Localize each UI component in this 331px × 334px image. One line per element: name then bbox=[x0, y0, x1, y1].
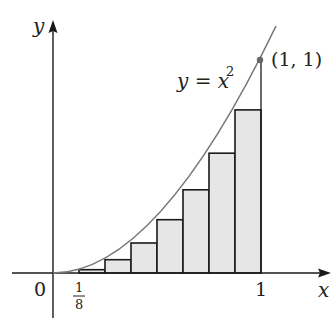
x-axis-label: x bbox=[318, 278, 329, 302]
rectangle-7 bbox=[209, 153, 235, 273]
rectangle-6 bbox=[183, 190, 209, 273]
rectangles bbox=[79, 110, 261, 273]
fraction-numerator: 1 bbox=[75, 280, 83, 295]
curve-label: y = x 2 bbox=[176, 64, 234, 93]
point-label: (1, 1) bbox=[271, 48, 322, 70]
curve-label-exponent: 2 bbox=[226, 64, 234, 79]
rectangle-4 bbox=[131, 243, 157, 273]
fraction-one-eighth: 1 8 bbox=[73, 280, 85, 312]
point-one-one bbox=[257, 57, 263, 63]
rectangle-3 bbox=[105, 260, 131, 273]
tick-one-label: 1 bbox=[255, 278, 267, 300]
rectangle-5 bbox=[157, 220, 183, 273]
rectangle-8 bbox=[235, 110, 261, 273]
y-axis-label: y bbox=[32, 14, 45, 38]
riemann-sum-diagram: y x 0 1 1 8 y = x 2 (1, 1) bbox=[0, 0, 331, 334]
origin-label: 0 bbox=[34, 278, 46, 300]
curve-label-text: y = x bbox=[176, 69, 229, 93]
fraction-denominator: 8 bbox=[75, 297, 83, 312]
